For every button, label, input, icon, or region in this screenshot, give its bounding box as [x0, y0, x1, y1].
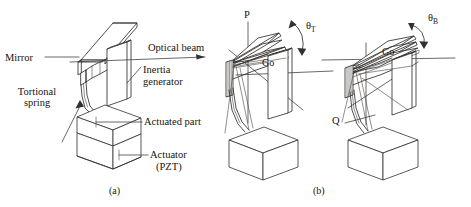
caption-a: (a) [109, 185, 120, 196]
torsion-inertia-plate-right [288, 48, 292, 113]
label-go-bending: Go [382, 46, 394, 57]
inertia-generator-right [127, 40, 131, 99]
theta-b-subscript: B [433, 17, 438, 26]
theta-b-arrow-left [408, 23, 415, 31]
tortional-spring-arrowhead [75, 100, 84, 109]
theta-t-arrow-down [297, 48, 306, 56]
torsion-neck-inner [86, 70, 107, 82]
bending-inertia-plate-right [412, 51, 416, 108]
panel-b-torsion-geometry [225, 20, 333, 180]
theta-b-arrow-down [419, 41, 428, 49]
label-inertia-generator-line2: generator [143, 76, 183, 88]
label-tortional-spring-line1: Tortional [4, 86, 70, 98]
label-theta-t: θT [306, 20, 316, 34]
label-inertia-generator-line1: Inertia [143, 64, 170, 76]
torsion-spring-skew [236, 66, 253, 130]
optical-beam-arrowhead [196, 54, 205, 59]
torsion-spring-beam-b [233, 88, 249, 130]
label-go-torsion: Go [262, 57, 274, 68]
label-mirror: Mirror [5, 52, 33, 64]
label-tortional-spring-line2: spring [4, 97, 70, 109]
figure-canvas: Mirror Tortional spring Optical beam Ine… [0, 0, 471, 207]
label-theta-b: θB [428, 12, 438, 26]
leader-inertia-generator [127, 67, 141, 83]
label-optical-beam: Optical beam [148, 42, 204, 54]
caption-b: (b) [313, 185, 325, 196]
label-axis-q: Q [332, 115, 340, 126]
figure-linework [0, 0, 471, 207]
inertia-generator-face [107, 42, 127, 106]
theta-t-arrow-up [289, 20, 297, 29]
torsion-beam-right [86, 82, 96, 113]
mirror-plate-lower-tab [81, 70, 86, 85]
label-axis-p: P [244, 9, 250, 20]
theta-t-subscript: T [311, 25, 316, 34]
label-actuated-part: Actuated part [144, 116, 201, 128]
label-actuator-line1: Actuator [150, 149, 187, 161]
bending-spring-beam-a [350, 92, 364, 133]
label-actuator-pzt-line2: (PZT) [156, 161, 182, 173]
